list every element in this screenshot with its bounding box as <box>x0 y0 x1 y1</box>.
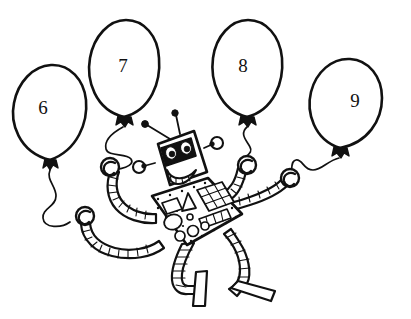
ear-right-bolt <box>210 142 215 147</box>
worksheet-illustration: 6 7 8 9 <box>0 0 411 319</box>
hook-lower-left[interactable] <box>76 207 94 225</box>
panel-small-dial-a[interactable] <box>175 231 185 241</box>
panel-small-dial-b[interactable] <box>188 226 199 237</box>
antenna-right-tip-icon <box>172 110 178 116</box>
balloon-8-number: 8 <box>238 55 248 76</box>
balloon-7-number: 7 <box>118 55 128 76</box>
bottom-caption <box>0 309 411 319</box>
balloon-9-number: 9 <box>350 90 360 111</box>
balloon-6-number: 6 <box>38 97 48 118</box>
hook-upper-right[interactable] <box>238 156 256 174</box>
left-pupil <box>169 151 175 157</box>
hook-upper-left[interactable] <box>101 158 119 176</box>
foot-left <box>193 271 207 306</box>
antenna-left-tip-icon <box>142 121 149 128</box>
line-drawing-canvas: 6 7 8 9 <box>0 0 411 319</box>
right-pupil <box>184 146 190 152</box>
panel-small-dial-d[interactable] <box>187 214 193 220</box>
hook-lower-right[interactable] <box>281 169 299 187</box>
ear-left-bolt <box>142 164 147 169</box>
panel-small-dial-c[interactable] <box>201 222 209 230</box>
